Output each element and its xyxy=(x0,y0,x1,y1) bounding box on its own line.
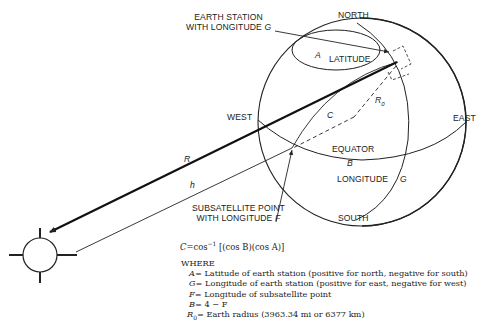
earth-radius-label: R0 xyxy=(375,95,385,109)
north-label: NORTH xyxy=(338,10,369,20)
subsatellite-label: SUBSATELLITE POINT WITH LONGITUDE F xyxy=(192,203,285,223)
legend-text: = Longitude of subsatellite point xyxy=(195,289,332,299)
central-angle-label: C xyxy=(327,110,333,120)
central-angle-equation: C=cos−1 [(cos B)(cos A)] xyxy=(180,240,284,252)
equation-func: cos xyxy=(193,242,207,252)
west-label: WEST xyxy=(227,112,252,122)
earth-station-label: EARTH STATION WITH LONGITUDE G xyxy=(186,12,271,32)
longitude-var: G xyxy=(400,174,407,184)
earth-station-label-line2: WITH LONGITUDE G xyxy=(186,22,271,32)
equation-exponent: −1 xyxy=(207,240,216,247)
earth-radius-sub: 0 xyxy=(381,101,384,107)
latitude-var: A xyxy=(315,50,321,60)
height-label: h xyxy=(190,180,195,190)
legend-item-r0: R0= Earth radius (3963.34 mi or 6377 km) xyxy=(181,309,468,323)
equator-var: B xyxy=(347,158,353,168)
legend-item-f: F= Longitude of subsatellite point xyxy=(181,289,468,299)
subsatellite-label-text: WITH LONGITUDE xyxy=(197,213,273,223)
earth-station-var: G xyxy=(264,22,271,32)
legend-item-g: G= Longitude of earth station (positive … xyxy=(181,278,468,288)
range-label: R xyxy=(184,154,190,164)
legend-item-a: A= Latitude of earth station (positive f… xyxy=(181,268,468,278)
equator-label: EQUATOR xyxy=(332,144,374,154)
subsatellite-label-line2: WITH LONGITUDE F xyxy=(192,213,285,223)
south-label: SOUTH xyxy=(338,213,369,223)
subsatellite-label-line1: SUBSATELLITE POINT xyxy=(192,203,285,213)
earth-station-label-text: WITH LONGITUDE xyxy=(186,22,262,32)
legend-item-b: B= 4 − F xyxy=(181,299,468,309)
legend-text: = 4 − F xyxy=(195,299,227,309)
legend-heading: WHERE xyxy=(181,258,468,268)
variable-legend: WHERE A= Latitude of earth station (posi… xyxy=(181,258,468,323)
legend-text: = Latitude of earth station (positive fo… xyxy=(195,268,468,278)
latitude-label: LATITUDE xyxy=(329,54,371,64)
right-angle-markers xyxy=(388,46,411,80)
equation-rhs: [(cos B)(cos A)] xyxy=(219,242,284,252)
legend-text: = Longitude of earth station (positive f… xyxy=(196,278,467,288)
legend-text: = Earth radius (3963.34 mi or 6377 km) xyxy=(197,309,365,319)
satellite-icon xyxy=(9,228,77,283)
longitude-label: LONGITUDE xyxy=(337,174,388,184)
east-label: EAST xyxy=(453,113,476,123)
globe-icon xyxy=(258,18,466,226)
earth-station-label-line1: EARTH STATION xyxy=(186,12,271,22)
subsatellite-var: F xyxy=(275,213,280,223)
